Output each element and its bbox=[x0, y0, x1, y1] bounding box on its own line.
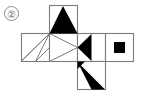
filled-small-square-back-face bbox=[114, 42, 125, 53]
cube-net-figure: ② bbox=[0, 0, 144, 98]
cube-net-svg bbox=[0, 0, 144, 98]
square-front-face bbox=[50, 34, 78, 62]
